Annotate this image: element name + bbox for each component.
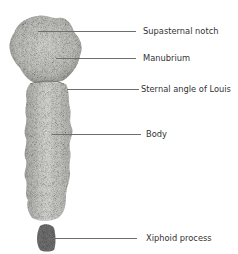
- label-body: Body: [146, 129, 167, 139]
- body-shape: [25, 83, 73, 222]
- sternum-illustration: [0, 0, 238, 254]
- leader-line-xiphoid-process: [48, 238, 137, 239]
- manubrium-shape: [9, 16, 81, 84]
- label-supasternal-notch: Supasternal notch: [143, 26, 219, 36]
- leader-line-supasternal-notch: [38, 31, 136, 32]
- leader-line-sternal-angle: [67, 89, 139, 90]
- leader-line-body: [52, 134, 141, 135]
- label-xiphoid-process: Xiphoid process: [146, 233, 212, 243]
- leader-line-manubrium: [56, 58, 136, 59]
- label-sternal-angle-of-louis: Sternal angle of Louis: [141, 84, 231, 94]
- label-manubrium: Manubrium: [143, 53, 190, 63]
